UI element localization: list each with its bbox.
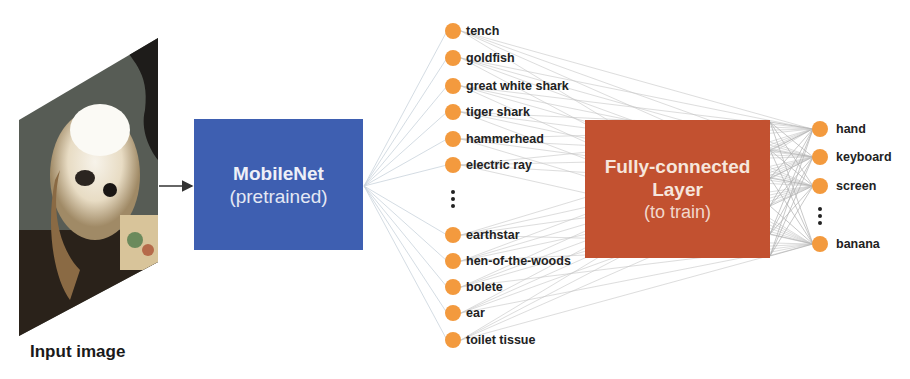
class-node <box>445 78 461 94</box>
mobilenet-subtitle: (pretrained) <box>229 185 327 208</box>
class-label: great white shark <box>466 79 569 93</box>
output-label: banana <box>836 237 880 251</box>
fully-connected-block: Fully-connected Layer (to train) <box>585 120 770 258</box>
fc-subtitle: (to train) <box>644 201 711 224</box>
class-node <box>445 104 461 120</box>
class-label: goldfish <box>466 51 515 65</box>
class-label: earthstar <box>466 228 520 242</box>
ellipsis-icon <box>451 190 455 211</box>
output-label: keyboard <box>836 150 892 164</box>
fc-title-line2: Layer <box>652 178 703 201</box>
class-node <box>445 157 461 173</box>
class-node <box>445 253 461 269</box>
output-node <box>812 149 828 165</box>
class-node <box>445 305 461 321</box>
output-label: screen <box>836 179 876 193</box>
output-node <box>812 178 828 194</box>
output-node <box>812 236 828 252</box>
fc-title-line1: Fully-connected <box>605 155 751 178</box>
ellipsis-icon <box>818 207 822 228</box>
class-label: ear <box>466 306 485 320</box>
class-node <box>445 279 461 295</box>
transfer-learning-diagram: Input image MobileNet (pretrained) Fully… <box>0 0 910 379</box>
class-label: hen-of-the-woods <box>466 254 571 268</box>
class-node <box>445 227 461 243</box>
mobilenet-title: MobileNet <box>233 162 324 185</box>
class-node <box>445 50 461 66</box>
class-node <box>445 23 461 39</box>
class-label: tiger shark <box>466 105 530 119</box>
mobilenet-block: MobileNet (pretrained) <box>194 119 363 250</box>
class-label: hammerhead <box>466 132 544 146</box>
class-label: tench <box>466 24 499 38</box>
input-image <box>0 0 160 340</box>
class-label: toilet tissue <box>466 333 535 347</box>
class-label: electric ray <box>466 158 532 172</box>
input-image-label: Input image <box>30 342 125 362</box>
class-node <box>445 131 461 147</box>
output-label: hand <box>836 122 866 136</box>
class-label: bolete <box>466 280 503 294</box>
class-node <box>445 332 461 348</box>
output-node <box>812 121 828 137</box>
